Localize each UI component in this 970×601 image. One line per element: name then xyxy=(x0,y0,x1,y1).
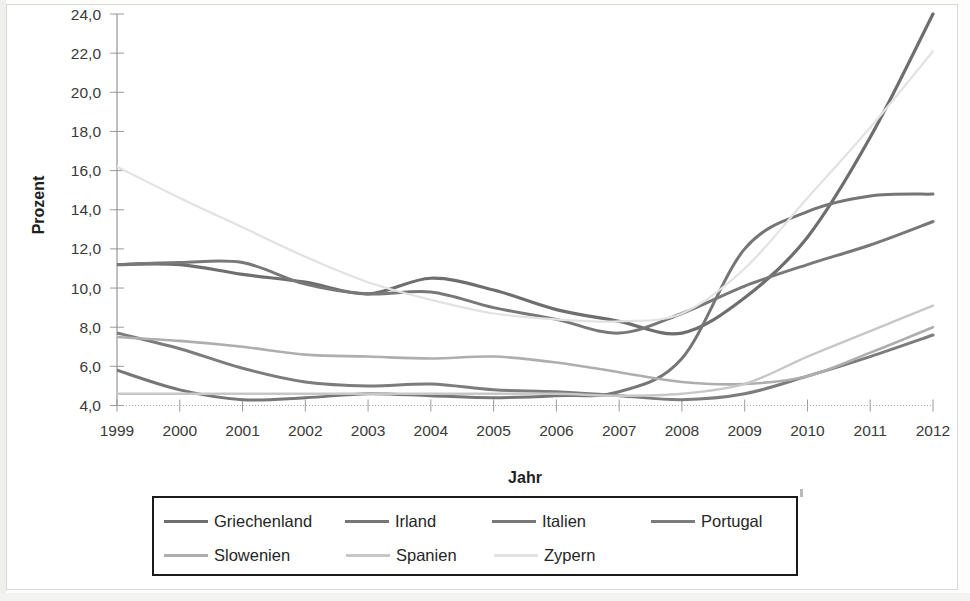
x-tick-label: 2011 xyxy=(854,422,887,439)
x-tick-label: 2006 xyxy=(539,422,573,439)
y-tick-label: 14,0 xyxy=(71,201,102,218)
y-tick-label: 12,0 xyxy=(71,240,102,257)
legend-item-slowenien[interactable]: Slowenien xyxy=(154,546,336,565)
chart-legend: GriechenlandIrlandItalienPortugal Slowen… xyxy=(152,496,798,576)
data-series-group xyxy=(117,14,933,400)
series-line-spanien xyxy=(117,306,933,396)
y-tick-label: 16,0 xyxy=(71,162,102,179)
y-tick-label: 18,0 xyxy=(71,123,102,140)
y-axis-title: Prozent xyxy=(30,175,47,234)
series-line-zypern xyxy=(117,51,933,321)
legend-swatch-griechenland xyxy=(164,520,208,523)
legend-swatch-portugal xyxy=(651,520,695,523)
legend-item-italien[interactable]: Italien xyxy=(482,512,641,531)
x-tick-label: 2009 xyxy=(727,422,761,439)
legend-swatch-spanien xyxy=(346,554,390,557)
legend-label: Slowenien xyxy=(214,546,290,565)
x-tick-label: 2002 xyxy=(288,422,322,439)
x-tick-label: 2012 xyxy=(916,422,950,439)
legend-item-irland[interactable]: Irland xyxy=(335,512,482,531)
x-tick-label: 2003 xyxy=(351,422,385,439)
x-tick-label: 2007 xyxy=(602,422,636,439)
x-axis-tick-labels: 1999200020012002200320042005200620072008… xyxy=(100,422,950,439)
x-tick-label: 2008 xyxy=(665,422,699,439)
scan-artifact-speck xyxy=(800,489,803,497)
legend-swatch-slowenien xyxy=(164,554,208,557)
legend-row-2: SlowenienSpanienZypern xyxy=(154,538,796,572)
x-axis-title: Jahr xyxy=(508,469,542,486)
legend-label: Griechenland xyxy=(214,512,312,531)
y-tick-label: 6,0 xyxy=(79,358,101,375)
legend-swatch-zypern xyxy=(494,554,538,557)
y-tick-label: 24,0 xyxy=(71,6,102,23)
legend-item-portugal[interactable]: Portugal xyxy=(641,512,796,531)
x-tick-label: 2001 xyxy=(225,422,259,439)
x-tick-label: 2004 xyxy=(414,422,449,439)
legend-row-1: GriechenlandIrlandItalienPortugal xyxy=(154,504,796,538)
legend-label: Spanien xyxy=(396,546,457,565)
y-tick-label: 8,0 xyxy=(79,319,101,336)
x-tick-label: 2005 xyxy=(476,422,510,439)
legend-label: Zypern xyxy=(544,546,595,565)
legend-label: Portugal xyxy=(701,512,762,531)
legend-swatch-italien xyxy=(492,520,536,523)
legend-item-zypern[interactable]: Zypern xyxy=(484,546,644,565)
x-tick-label: 2000 xyxy=(163,422,198,439)
x-tick-label: 2010 xyxy=(790,422,825,439)
legend-item-spanien[interactable]: Spanien xyxy=(336,546,484,565)
y-tick-label: 10,0 xyxy=(71,280,102,297)
legend-label: Irland xyxy=(395,512,436,531)
y-tick-label: 20,0 xyxy=(71,84,102,101)
chart-figure: 4,06,08,010,012,014,016,018,020,022,024,… xyxy=(0,0,970,601)
series-line-portugal xyxy=(117,333,933,400)
legend-item-griechenland[interactable]: Griechenland xyxy=(154,512,335,531)
y-axis-tick-labels: 4,06,08,010,012,014,016,018,020,022,024,… xyxy=(71,6,102,415)
y-tick-label: 4,0 xyxy=(79,397,101,414)
y-tick-label: 22,0 xyxy=(71,45,102,62)
x-tick-label: 1999 xyxy=(100,422,134,439)
series-line-griechenland xyxy=(117,14,933,334)
legend-swatch-irland xyxy=(345,520,389,523)
legend-label: Italien xyxy=(542,512,586,531)
